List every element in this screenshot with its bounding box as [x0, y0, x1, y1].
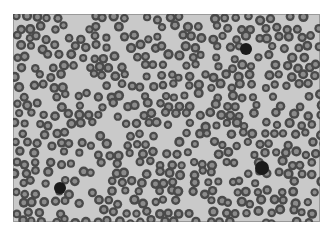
cell-center — [253, 181, 257, 185]
cell-center — [226, 149, 231, 154]
cell-center — [228, 45, 233, 50]
cell-center — [42, 113, 46, 117]
cell-center — [176, 212, 181, 217]
cell-center — [77, 112, 82, 117]
cell-center — [293, 132, 298, 137]
cell-center — [230, 86, 234, 90]
cell-center — [265, 188, 270, 193]
cell-center — [183, 43, 188, 48]
cell-center — [184, 131, 188, 135]
cell-center — [143, 54, 147, 58]
cell-center — [13, 140, 17, 144]
cell-center — [170, 73, 174, 77]
cell-center — [44, 16, 48, 20]
cell-center — [22, 54, 27, 59]
cell-center — [161, 83, 165, 87]
cell-center — [163, 110, 168, 115]
cell-center — [18, 149, 23, 154]
cell-center — [192, 173, 197, 178]
cell-center — [234, 38, 238, 42]
white-blood-cell — [255, 161, 269, 175]
cell-center — [273, 62, 278, 67]
cell-center — [60, 85, 65, 90]
cell-center — [310, 122, 314, 126]
cell-center — [284, 84, 288, 88]
cell-center — [15, 102, 19, 106]
cell-center — [22, 181, 26, 185]
cell-center — [177, 14, 182, 19]
cell-center — [53, 27, 57, 31]
cell-center — [67, 36, 71, 40]
cell-center — [313, 151, 318, 156]
cell-center — [200, 162, 205, 167]
cell-center — [300, 210, 304, 214]
cell-center — [311, 140, 316, 145]
cell-center — [275, 25, 280, 30]
cell-center — [224, 211, 229, 216]
cell-center — [240, 96, 245, 101]
cell-center — [236, 74, 241, 79]
cell-center — [280, 190, 284, 194]
cell-center — [250, 131, 255, 136]
cell-center — [158, 101, 162, 105]
cell-center — [87, 27, 91, 31]
cell-center — [291, 189, 296, 194]
cell-center — [167, 170, 172, 175]
cell-center — [259, 197, 264, 202]
cell-center — [84, 91, 88, 95]
cell-center — [94, 24, 99, 29]
cell-center — [176, 76, 180, 80]
cell-center — [73, 43, 78, 48]
cell-center — [264, 120, 268, 124]
cell-center — [138, 160, 142, 164]
cell-center — [241, 130, 245, 134]
cell-center — [277, 72, 281, 76]
cell-center — [233, 211, 238, 216]
cell-center — [155, 18, 160, 23]
cell-center — [59, 72, 64, 77]
cell-center — [263, 131, 267, 135]
cell-center — [33, 66, 37, 70]
cell-center — [297, 46, 301, 50]
cell-center — [19, 65, 24, 70]
cell-center — [69, 121, 74, 126]
cell-center — [69, 52, 74, 57]
cell-center — [272, 197, 277, 202]
cell-center — [111, 100, 116, 105]
cell-center — [35, 101, 40, 106]
cell-center — [177, 139, 182, 144]
cell-center — [252, 153, 256, 157]
cell-center — [174, 111, 179, 116]
cell-center — [28, 36, 32, 40]
cell-center — [214, 55, 218, 59]
cell-center — [145, 15, 149, 19]
cell-center — [203, 72, 207, 76]
cell-center — [66, 192, 71, 197]
cell-center — [81, 169, 86, 174]
cell-center — [226, 201, 230, 205]
cell-center — [17, 111, 21, 115]
cell-center — [33, 168, 37, 172]
cell-center — [282, 46, 287, 51]
cell-center — [22, 192, 26, 196]
cell-center — [193, 142, 197, 146]
cell-center — [132, 197, 137, 202]
cell-center — [193, 62, 197, 66]
white-blood-cell — [240, 43, 252, 55]
cell-center — [274, 110, 279, 115]
cell-center — [44, 181, 48, 185]
cell-center — [14, 190, 18, 194]
cell-center — [92, 71, 96, 75]
cell-center — [234, 16, 238, 20]
cell-center — [244, 211, 248, 215]
cell-center — [134, 121, 139, 126]
cell-center — [247, 72, 252, 77]
cell-center — [264, 26, 269, 31]
cell-center — [116, 24, 121, 29]
cell-center — [181, 33, 186, 38]
cell-center — [101, 56, 106, 61]
cell-center — [168, 15, 173, 20]
cell-center — [225, 26, 230, 31]
cell-center — [310, 211, 315, 216]
cell-center — [203, 124, 208, 129]
